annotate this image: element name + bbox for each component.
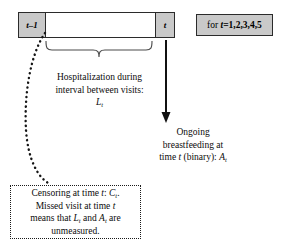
censoring-line3-prefix: means that	[30, 213, 73, 223]
breastfeeding-time-prefix: time	[159, 152, 178, 162]
breastfeeding-binary-text: (binary):	[181, 152, 219, 162]
breastfeeding-line-3: time t (binary): At	[118, 151, 268, 165]
breastfeeding-label: Ongoing breastfeeding at time t (binary)…	[118, 126, 268, 165]
censoring-box: Censoring at time t: Ct. Missed visit at…	[10, 185, 141, 239]
curly-brace-under-interval	[46, 41, 152, 57]
for-values: =1,2,3,4,5	[223, 20, 262, 30]
censoring-line1-period: .	[117, 188, 119, 198]
timeline-cell-current-visit: t	[155, 13, 174, 37]
diagram-canvas: t–1 t for t=1,2,3,4,5 Hospitalization du…	[0, 0, 283, 250]
censoring-line-2: Missed visit at time t	[30, 200, 120, 212]
censoring-line3-sub-a: t	[105, 217, 107, 224]
hospitalization-line-1: Hospitalization during	[27, 71, 172, 84]
timeline-right-label: t	[164, 20, 167, 30]
hospitalization-line-2: interval between visits:	[27, 84, 172, 97]
censoring-line3-sub-l: t	[79, 217, 81, 224]
hospitalization-symbol-sub: t	[101, 101, 103, 108]
censoring-line1-prefix: Censoring at time	[31, 188, 101, 198]
hospitalization-label: Hospitalization during interval between …	[27, 71, 172, 110]
censoring-line3-and: and	[81, 213, 99, 223]
censoring-line-3: means that Lt and At are	[30, 212, 120, 225]
breastfeeding-line-1: Ongoing	[118, 126, 268, 139]
censoring-line3-are: are	[107, 213, 121, 223]
censoring-line2-prefix: Missed visit at time	[36, 201, 113, 211]
censoring-text: Censoring at time t: Ct. Missed visit at…	[30, 187, 120, 237]
breastfeeding-symbol-sub: t	[225, 156, 227, 163]
for-t-range-label: for t=1,2,3,4,5	[207, 20, 262, 30]
censoring-line-4: unmeasured.	[30, 225, 120, 237]
hospitalization-symbol: Lt	[27, 96, 172, 110]
timeline-cell-previous-visit: t–1	[19, 13, 46, 37]
censoring-line-1: Censoring at time t: Ct.	[30, 187, 120, 200]
timeline-left-label: t–1	[26, 20, 38, 30]
timeline-bar: t–1 t	[18, 12, 175, 38]
breastfeeding-line-2: breastfeeding at	[118, 139, 268, 152]
down-arrow-head	[162, 112, 171, 123]
censoring-symbol-sub: t	[115, 192, 117, 199]
for-prefix: for	[207, 20, 220, 30]
for-t-range-box: for t=1,2,3,4,5	[196, 14, 273, 36]
censoring-line2-variable: t	[113, 201, 116, 211]
